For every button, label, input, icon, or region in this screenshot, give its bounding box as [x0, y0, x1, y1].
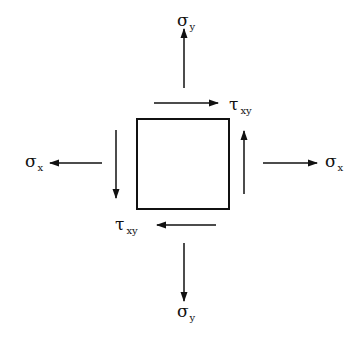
label-sigma-x-left: σx — [25, 151, 44, 173]
stress-element-square — [137, 119, 229, 209]
label-tau-xy-top: τxy — [229, 94, 252, 116]
label-tau-xy-bottom: τxy — [115, 214, 138, 236]
stress-element-diagram: σy σy σx σx τxy τxy — [0, 0, 361, 345]
label-sigma-y-top: σy — [177, 10, 196, 32]
label-sigma-x-right: σx — [325, 151, 344, 173]
label-sigma-y-bottom: σy — [177, 301, 196, 323]
